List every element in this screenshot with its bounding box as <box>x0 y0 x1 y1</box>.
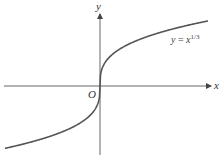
x-axis-label: x <box>214 79 219 91</box>
y-axis-label: y <box>96 0 101 12</box>
cube-root-graph: y x O y = x1/3 <box>0 0 224 162</box>
graph-canvas <box>0 0 224 162</box>
equation-exponent: 1/3 <box>191 33 200 41</box>
curve-equation-label: y = x1/3 <box>171 33 200 45</box>
origin-label: O <box>88 88 96 100</box>
equation-equals: = <box>175 34 186 45</box>
